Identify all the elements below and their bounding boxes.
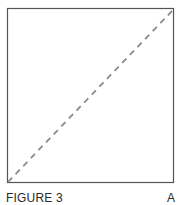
- figure-caption: FIGURE 3: [6, 191, 63, 205]
- dashed-diagonal: [8, 10, 173, 182]
- figure-diagram: [0, 0, 179, 205]
- panel-label: A: [167, 191, 175, 205]
